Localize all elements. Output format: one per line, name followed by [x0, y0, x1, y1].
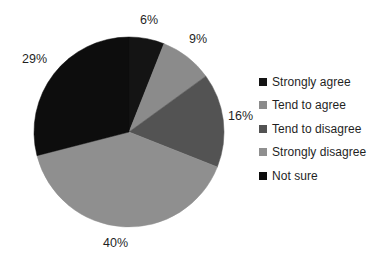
chart-legend: Strongly agree Tend to agree Tend to dis… [259, 70, 383, 188]
pie-svg [0, 0, 265, 258]
slice-label-not-sure: 29% [22, 52, 47, 66]
pie-chart-figure: 6% 9% 16% 40% 29% Strongly agree Tend to… [0, 0, 383, 258]
legend-item-strongly-disagree[interactable]: Strongly disagree [259, 141, 383, 165]
legend-item-label: Tend to agree [272, 98, 346, 112]
slice-label-strongly-agree: 6% [140, 13, 158, 27]
legend-swatch-icon [259, 125, 267, 133]
legend-item-not-sure[interactable]: Not sure [259, 164, 383, 188]
legend-swatch-icon [259, 101, 267, 109]
legend-item-label: Strongly disagree [272, 145, 366, 159]
legend-swatch-icon [259, 148, 267, 156]
slice-label-tend-to-disagree: 16% [228, 109, 253, 123]
pie-plot-area: 6% 9% 16% 40% 29% [0, 0, 265, 258]
slice-label-tend-to-agree: 9% [189, 32, 207, 46]
slice-label-strongly-disagree: 40% [103, 236, 128, 250]
legend-item-label: Tend to disagree [272, 122, 362, 136]
legend-item-strongly-agree[interactable]: Strongly agree [259, 70, 383, 94]
legend-swatch-icon [259, 78, 267, 86]
legend-item-label: Not sure [272, 169, 318, 183]
pie-slice-group [34, 37, 224, 227]
legend-item-tend-to-disagree[interactable]: Tend to disagree [259, 117, 383, 141]
legend-item-label: Strongly agree [272, 75, 351, 89]
legend-swatch-icon [259, 172, 267, 180]
legend-item-tend-to-agree[interactable]: Tend to agree [259, 94, 383, 118]
